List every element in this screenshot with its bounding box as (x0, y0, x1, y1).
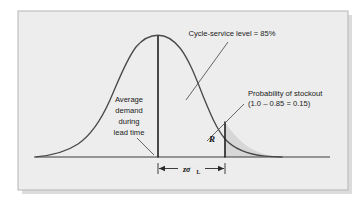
safety-stock-symbol: zσ (182, 165, 191, 174)
distribution-diagram-svg: zσ L R Cycle-service level = 85% Probabi… (0, 0, 364, 202)
average-demand-label-line4: lead time (114, 128, 145, 137)
stockout-label-line1: Probability of stockout (248, 89, 323, 98)
reorder-point-label: R (208, 134, 215, 144)
stockout-label-line2: (1.0 – 0.85 = 0.15) (248, 99, 311, 108)
figure-container: zσ L R Cycle-service level = 85% Probabi… (0, 0, 364, 202)
average-demand-label-line3: during (118, 117, 139, 126)
average-demand-label-line1: Average (115, 95, 143, 104)
cycle-service-level-label: Cycle-service level = 85% (188, 29, 275, 38)
safety-stock-subscript: L (197, 169, 201, 175)
average-demand-label-line2: demand (115, 106, 142, 115)
